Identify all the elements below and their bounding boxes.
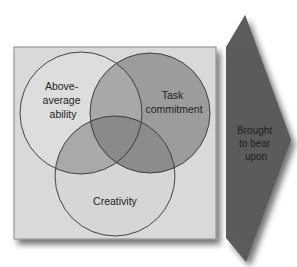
venn-diagram: Above- average ability Task commitment C…: [0, 0, 297, 267]
label-creativity: Creativity: [93, 195, 138, 207]
